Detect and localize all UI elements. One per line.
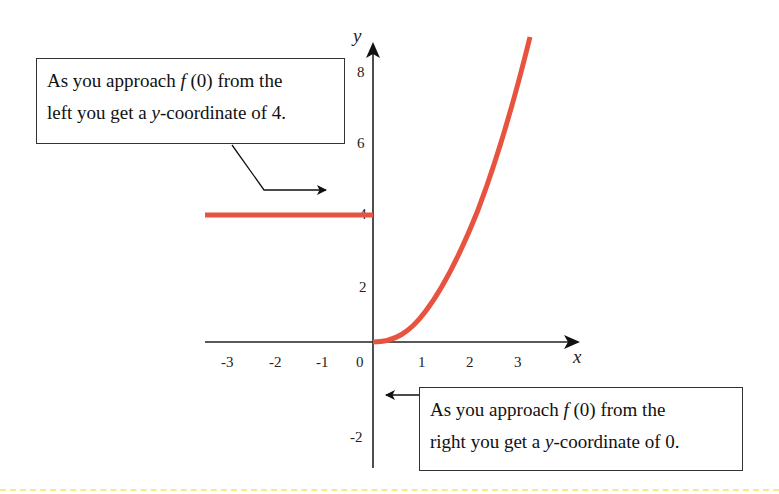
x-axis-label: x xyxy=(572,346,582,367)
x-tick-label: 1 xyxy=(418,354,426,370)
y-tick-label: 2 xyxy=(359,279,367,295)
callout-text: -coordinate of 0. xyxy=(553,431,679,452)
callout-text: -coordinate of 4. xyxy=(160,102,286,123)
callout-text: (0) from the xyxy=(186,70,283,91)
right-limit-callout: As you approach f (0) from the right you… xyxy=(419,387,743,471)
callout-text: As you approach xyxy=(430,399,564,420)
callout-text: As you approach xyxy=(47,70,181,91)
callout-text: right you get a xyxy=(430,431,545,452)
y-tick-label: 6 xyxy=(357,135,365,151)
x-tick-label: 3 xyxy=(514,354,522,370)
callout-text: left you get a xyxy=(47,102,151,123)
x-tick-label: -3 xyxy=(221,354,234,370)
x-tick-label: -2 xyxy=(269,354,282,370)
x-tick-label: -1 xyxy=(316,354,329,370)
left-limit-callout: As you approach f (0) from the left you … xyxy=(36,58,345,144)
y-tick-label: -2 xyxy=(350,429,363,445)
dashed-divider xyxy=(0,489,779,491)
x-tick-label: 2 xyxy=(466,354,474,370)
y-tick-label: 8 xyxy=(357,64,365,80)
callout-text: (0) from the xyxy=(569,399,666,420)
callout-variable-symbol: y xyxy=(151,102,159,123)
x-tick-label: 0 xyxy=(356,354,364,370)
left-callout-arrow xyxy=(232,145,326,190)
right-piece-curve xyxy=(373,37,530,342)
y-axis-label: y xyxy=(351,25,362,46)
